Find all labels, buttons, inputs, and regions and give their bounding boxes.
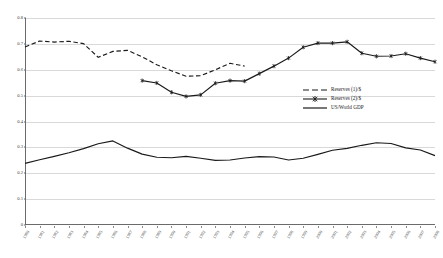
x-axis-tick-label: 1997 [271, 230, 279, 240]
x-axis-tick-label: 1995 [242, 230, 250, 240]
x-axis-tick-mark [171, 226, 172, 228]
legend-item-reserves-1: Reserves (1)/$ [302, 85, 398, 94]
x-axis-tick-label: 1993 [213, 230, 221, 240]
series-line [25, 41, 245, 76]
x-axis-tick-label: 2002 [345, 230, 353, 240]
x-axis-tick-mark [230, 226, 231, 228]
x-axis-tick-mark [215, 226, 216, 228]
chart-container: 00.10.20.30.40.50.60.70.8 19801981198219… [0, 0, 443, 258]
x-axis-tick-label: 1987 [125, 230, 133, 240]
x-axis-tick-label: 2007 [418, 230, 426, 240]
x-axis-tick-label: 1986 [110, 230, 118, 240]
x-axis-tick-mark [128, 226, 129, 228]
x-axis-tick-mark [435, 226, 436, 228]
x-axis-tick-mark [98, 226, 99, 228]
x-axis-tick-mark [406, 226, 407, 228]
x-axis-tick-label: 1990 [169, 230, 177, 240]
x-axis-tick-label: 2001 [330, 230, 338, 240]
x-axis-tick-label: 1988 [140, 230, 148, 240]
series-layer [0, 0, 443, 258]
x-axis-tick-mark [259, 226, 260, 228]
legend-item-reserves-2: Reserves (2)/$ [302, 94, 398, 103]
legend-label-us-world-gdp: US/World GDP [331, 105, 364, 110]
x-axis-tick-label: 2000 [315, 230, 323, 240]
x-axis-tick-mark [201, 226, 202, 228]
x-axis-tick-label: 1992 [198, 230, 206, 240]
x-axis-tick-label: 2003 [359, 230, 367, 240]
x-axis-tick-mark [25, 226, 26, 228]
x-axis-tick-mark [69, 226, 70, 228]
x-axis-tick-label: 1989 [154, 230, 162, 240]
x-axis-tick-label: 1991 [184, 230, 192, 240]
x-axis-tick-label: 1998 [286, 230, 294, 240]
x-axis-tick-mark [391, 226, 392, 228]
x-axis-tick-mark [333, 226, 334, 228]
x-axis-tick-mark [274, 226, 275, 228]
legend-label-reserves-2: Reserves (2)/$ [331, 96, 361, 101]
x-axis-tick-mark [142, 226, 143, 228]
legend-swatch-dashed-line [302, 86, 328, 94]
x-axis-tick-mark [186, 226, 187, 228]
x-axis-tick-mark [54, 226, 55, 228]
x-axis-tick-mark [84, 226, 85, 228]
legend-swatch-star-line [302, 95, 328, 103]
x-axis-tick-label: 2004 [374, 230, 382, 240]
x-axis-tick-label: 2005 [389, 230, 397, 240]
x-axis-tick-mark [376, 226, 377, 228]
series-line [25, 141, 435, 164]
x-axis-tick-mark [420, 226, 421, 228]
x-axis-tick-mark [40, 226, 41, 228]
x-axis-tick-label: 1984 [81, 230, 89, 240]
x-axis-tick-label: 1981 [37, 230, 45, 240]
legend-item-us-world-gdp: US/World GDP [302, 103, 398, 112]
x-axis-tick-mark [245, 226, 246, 228]
x-axis-tick-mark [362, 226, 363, 228]
x-axis-tick-label: 1980 [22, 230, 30, 240]
x-axis-tick-mark [347, 226, 348, 228]
x-axis-tick-label: 1996 [257, 230, 265, 240]
legend-swatch-solid-line [302, 104, 328, 112]
x-axis-tick-mark [289, 226, 290, 228]
x-axis-tick-label: 1983 [66, 230, 74, 240]
x-axis-tick-label: 2006 [403, 230, 411, 240]
x-axis-tick-mark [113, 226, 114, 228]
x-axis-tick-mark [157, 226, 158, 228]
x-axis-tick-label: 1994 [227, 230, 235, 240]
x-axis-tick-mark [303, 226, 304, 228]
chart-legend: Reserves (1)/$ Reserves (2)/$ [302, 85, 398, 112]
x-axis-tick-mark [318, 226, 319, 228]
x-axis-tick-label: 1982 [52, 230, 60, 240]
x-axis-tick-label: 1999 [301, 230, 309, 240]
x-axis-tick-label: 1985 [96, 230, 104, 240]
legend-label-reserves-1: Reserves (1)/$ [331, 87, 361, 92]
x-axis-labels: 1980198119821983198419851986198719881989… [25, 226, 435, 258]
